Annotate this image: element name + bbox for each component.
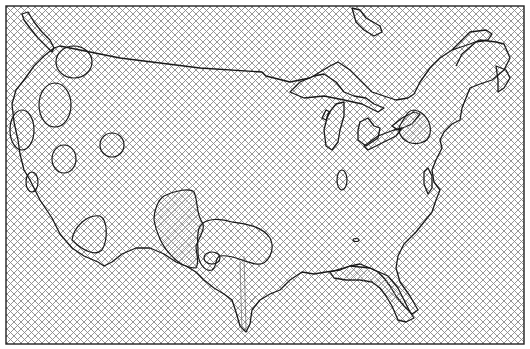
us-contour-map — [0, 0, 530, 349]
map-figure — [0, 0, 530, 349]
hatch-field — [6, 6, 524, 344]
